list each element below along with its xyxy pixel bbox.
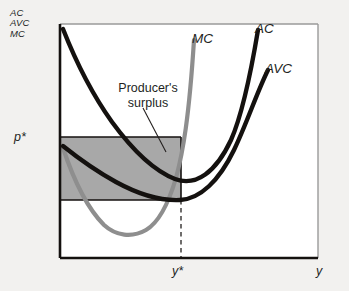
mc-curve-label: MC bbox=[192, 31, 213, 46]
x-axis-label-y: y bbox=[316, 264, 322, 278]
producer-surplus-annotation: Producer's surplus bbox=[100, 81, 196, 112]
y-axis-label-mc: MC bbox=[10, 29, 30, 39]
producer-surplus-figure: AC AVC MC MC AC AVC p* y* y Producer's s… bbox=[0, 0, 349, 291]
price-tick-label-pstar: p* bbox=[14, 130, 26, 144]
producer-surplus-annotation-line-2: surplus bbox=[100, 96, 196, 111]
producer-surplus-annotation-line-1: Producer's bbox=[100, 81, 196, 96]
ac-curve-label: AC bbox=[255, 21, 274, 36]
cost-curves-plot bbox=[0, 0, 349, 291]
y-axis-label-avc: AVC bbox=[10, 18, 30, 28]
quantity-tick-label-ystar: y* bbox=[172, 264, 183, 278]
avc-curve-label: AVC bbox=[265, 61, 292, 76]
y-axis-label-stack: AC AVC MC bbox=[10, 8, 30, 39]
